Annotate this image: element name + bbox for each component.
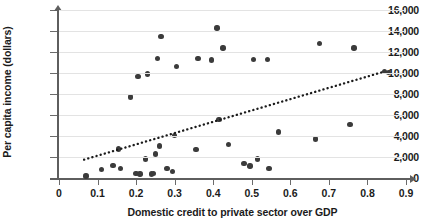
gridline [59,115,406,116]
x-tick-mark [367,180,368,185]
x-tick-label: 0.5 [237,188,267,199]
data-point [276,129,281,134]
x-tick-mark [213,180,214,185]
gridline [59,94,406,95]
x-axis-arrow-icon [410,175,416,183]
x-tick-mark [406,180,407,185]
data-point [251,57,256,62]
data-point [265,57,270,62]
data-point [118,166,123,171]
x-tick-mark [136,180,137,185]
x-tick-label: 0.1 [83,188,113,199]
data-point [157,143,162,148]
gridline [59,136,406,137]
x-tick-mark [98,180,99,185]
data-point [135,74,140,79]
gridline [59,52,406,53]
x-tick-label: 0.3 [160,188,190,199]
data-point [110,163,115,168]
data-point [174,64,179,69]
plot-area [59,10,406,178]
gridline [59,31,406,32]
data-point [347,122,352,127]
x-tick-mark [175,180,176,185]
y-axis-title: Per capita income (dollars) [0,2,14,182]
x-axis-title: Domestic credit to private sector over G… [59,206,406,218]
data-point [193,147,198,152]
data-point [99,167,104,172]
x-tick-label: 0.7 [314,188,344,199]
data-point [209,57,214,62]
data-point [226,142,231,147]
data-point [116,146,121,151]
data-point [313,136,318,141]
x-tick-label: 0.2 [121,188,151,199]
x-tick-mark [290,180,291,185]
data-point [220,45,225,50]
x-tick-mark [329,180,330,185]
data-point [170,169,175,174]
gridline [59,73,406,74]
x-tick-label: 0.8 [352,188,382,199]
x-tick-mark [59,180,60,185]
data-point [351,45,356,50]
data-point [216,117,221,122]
data-point [128,94,133,99]
data-point [247,163,252,168]
y-tick-mark [50,52,57,53]
x-tick-mark [252,180,253,185]
data-point [137,171,142,176]
y-tick-mark [50,73,57,74]
data-point [83,173,88,178]
data-point [317,41,322,46]
x-tick-label: 0 [44,188,74,199]
data-point [153,151,158,156]
y-tick-mark [50,31,57,32]
data-point [266,166,271,171]
y-tick-mark [50,94,57,95]
y-tick-mark [50,136,57,137]
y-tick-mark [50,115,57,116]
data-point [158,34,163,39]
y-tick-mark [50,157,57,158]
x-tick-label: 0.4 [198,188,228,199]
x-axis-line [50,178,412,180]
data-point [195,56,200,61]
data-point [164,166,169,171]
gridline [59,10,406,11]
data-point [241,161,246,166]
x-tick-label: 0.9 [391,188,421,199]
x-tick-label: 0.6 [275,188,305,199]
data-point [155,56,160,61]
data-point [214,25,219,30]
gridline [59,157,406,158]
data-point [151,171,156,176]
